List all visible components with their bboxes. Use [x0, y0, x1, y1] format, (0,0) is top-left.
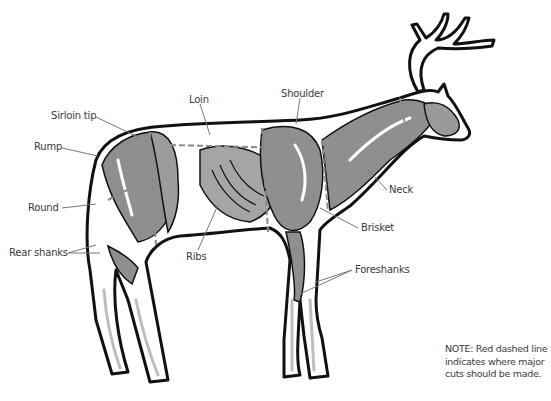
deer-illustration — [0, 0, 551, 401]
antlers — [410, 14, 494, 92]
label-rear-shanks: Rear shanks — [9, 247, 68, 258]
label-ribs: Ribs — [186, 251, 206, 262]
label-foreshanks: Foreshanks — [355, 264, 410, 275]
label-round: Round — [28, 202, 59, 213]
label-rump: Rump — [34, 141, 62, 152]
note-line-1: NOTE: Red dashed line — [445, 343, 551, 356]
note-line-3: cuts should be made. — [445, 368, 551, 381]
label-loin: Loin — [189, 94, 209, 105]
cut-line-note: NOTE: Red dashed line indicates where ma… — [445, 343, 551, 381]
note-line-2: indicates where major — [445, 356, 551, 369]
label-sirloin-tip: Sirloin tip — [51, 110, 96, 121]
label-shoulder: Shoulder — [281, 88, 324, 99]
label-neck: Neck — [389, 184, 413, 195]
label-brisket: Brisket — [361, 222, 394, 233]
